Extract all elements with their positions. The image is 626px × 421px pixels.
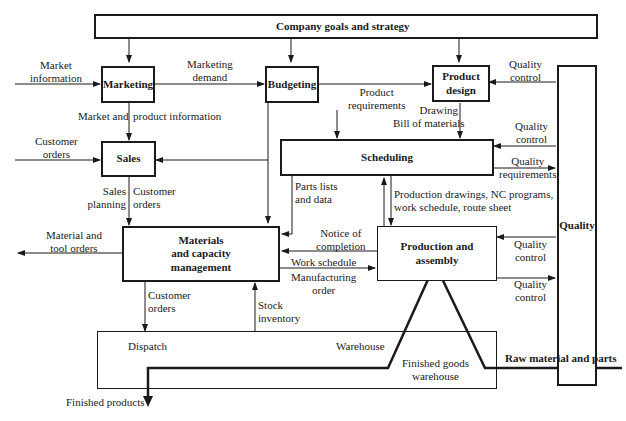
customer-orders-dispatch-label: Customer orders <box>148 289 191 314</box>
company-goals-box: Company goals and strategy <box>94 14 598 39</box>
budgeting-label: Budgeting <box>268 78 316 91</box>
product-design-label-2: design <box>446 84 476 97</box>
materials-label-3: management <box>171 261 232 274</box>
quality-control-production-in-label: Quality control <box>514 238 547 263</box>
dispatch-label: Dispatch <box>128 340 167 353</box>
production-drawings-label: Production drawings, NC programs, work s… <box>394 188 553 213</box>
stock-inventory-label: Stock inventory <box>258 299 300 324</box>
materials-label-1: Materials <box>178 234 223 247</box>
material-tool-orders-label: Material and tool orders <box>46 229 102 254</box>
parts-lists-label: Parts lists and data <box>295 180 337 205</box>
notice-completion-label: Notice of completion <box>316 227 366 252</box>
work-schedule-label: Work schedule <box>291 256 356 269</box>
production-assembly-box: Production and assembly <box>377 226 497 281</box>
quality-control-production-out-label: Quality control <box>514 278 547 303</box>
marketing-label: Marketing <box>103 78 153 91</box>
finished-products-label: Finished products <box>66 396 145 409</box>
raw-material-label: Raw material and parts <box>505 352 617 365</box>
quality-requirements-label: Quality requirements <box>499 155 556 180</box>
materials-label-2: and capacity <box>171 247 231 260</box>
drawing-bom-label: Drawing Bill of materials <box>393 104 458 129</box>
budgeting-box: Budgeting <box>265 66 319 103</box>
scheduling-label: Scheduling <box>361 151 413 164</box>
market-information-label: Market information <box>30 59 82 84</box>
product-design-label-1: Product <box>442 70 480 83</box>
customer-orders-sales-label: Customer orders <box>133 185 176 210</box>
quality-control-product-design-label: Quality control <box>509 58 542 83</box>
market-product-info-label-a: Market and <box>78 110 128 123</box>
market-product-info-label-b: product information <box>133 110 221 123</box>
finished-goods-warehouse-label: Finished goods warehouse <box>402 357 469 382</box>
manufacturing-order-label: Manufacturing order <box>291 271 356 296</box>
customer-orders-input-label: Customer orders <box>35 135 78 160</box>
sales-label: Sales <box>117 152 141 165</box>
marketing-demand-label: Marketing demand <box>187 58 233 83</box>
quality-box: Quality <box>557 65 597 386</box>
production-assembly-label: Production and assembly <box>378 240 496 266</box>
quality-label: Quality <box>559 219 594 232</box>
marketing-box: Marketing <box>101 66 155 103</box>
warehouse-label: Warehouse <box>336 340 385 353</box>
scheduling-box: Scheduling <box>280 139 494 176</box>
production-planning-diagram: Company goals and strategy Marketing Bud… <box>0 0 626 421</box>
sales-planning-label: Sales planning <box>86 185 126 210</box>
quality-control-scheduling-label: Quality control <box>515 120 548 145</box>
company-goals-label: Company goals and strategy <box>276 20 410 33</box>
sales-box: Sales <box>101 141 156 177</box>
materials-capacity-box: Materials and capacity management <box>122 226 280 282</box>
product-design-box: Product design <box>432 65 490 102</box>
